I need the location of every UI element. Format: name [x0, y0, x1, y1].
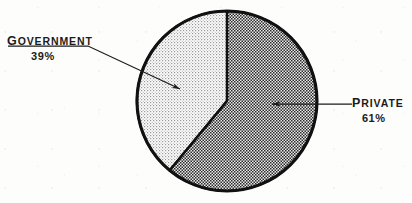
pie-chart-figure: GOVERNMENT 39% PRIVATE 61% [0, 0, 412, 203]
callout-label-government: GOVERNMENT 39% [7, 35, 93, 62]
callout-label-private: PRIVATE 61% [352, 97, 404, 124]
government-label-rest: OVERNMENT [18, 35, 93, 47]
government-label-initial: G [7, 34, 18, 48]
private-label-value: 61% [352, 113, 404, 125]
private-label-name: PRIVATE [352, 97, 404, 111]
government-label-name: GOVERNMENT [7, 35, 93, 49]
private-label-initial: P [352, 96, 361, 110]
private-label-rest: RIVATE [361, 97, 403, 109]
government-label-value: 39% [7, 51, 93, 63]
pie-chart-canvas [0, 0, 412, 203]
